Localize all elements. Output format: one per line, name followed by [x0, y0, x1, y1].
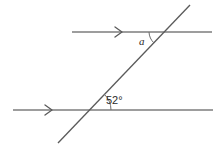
- unknown-angle-label: a: [139, 35, 145, 47]
- angle-arc-a-icon: [149, 32, 154, 43]
- geometry-diagram: 52° a: [0, 0, 223, 147]
- transversal-line: [58, 5, 190, 143]
- geometry-canvas: 52° a: [0, 0, 223, 147]
- known-angle-label: 52°: [106, 94, 123, 106]
